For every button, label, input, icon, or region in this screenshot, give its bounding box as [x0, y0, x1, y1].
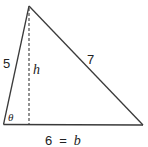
triangle-diagram: 5 7 h θ 6 = b [0, 0, 148, 147]
side-base [4, 125, 144, 126]
side-left-label: 5 [3, 56, 10, 71]
side-right-label: 7 [87, 52, 94, 67]
base-label: 6 = b [45, 131, 81, 147]
equals-sign: = [59, 133, 67, 147]
altitude-label: h [33, 62, 40, 77]
base-symbol: b [74, 133, 81, 147]
angle-theta-label: θ [8, 111, 14, 123]
base-value: 6 [45, 133, 52, 147]
side-right [29, 6, 143, 125]
